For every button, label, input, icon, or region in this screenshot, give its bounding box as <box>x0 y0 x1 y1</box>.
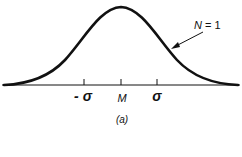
tick-label-mean: M <box>117 92 126 104</box>
figure-caption: (a) <box>116 114 128 125</box>
arrowhead-icon <box>171 42 180 49</box>
curve-label-var: N <box>194 19 202 31</box>
curve-label: N = 1 <box>194 19 221 31</box>
curve-label-value: = 1 <box>202 19 221 31</box>
tick-label-sigma: σ <box>152 88 161 104</box>
tick-label-minus-sigma: - σ <box>74 88 92 104</box>
